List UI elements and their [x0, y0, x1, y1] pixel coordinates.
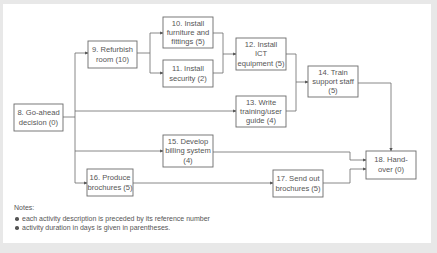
node-17-send-brochures: 17. Send out brochures (5)	[273, 170, 323, 197]
edge-10-12	[213, 33, 236, 54]
node-12-install-ict: 12. Install ICT equipment (5)	[236, 38, 286, 70]
node-14-train-staff: 14. Train support staff (5)	[308, 66, 358, 97]
svg-text:decision (0): decision (0)	[19, 118, 59, 127]
notes-title: Notes:	[14, 203, 210, 212]
svg-text:12. Install: 12. Install	[245, 40, 278, 49]
edge-9-11	[150, 53, 163, 73]
svg-text:furniture and: furniture and	[167, 28, 210, 37]
edge-8-9	[63, 53, 88, 183]
svg-text:training/user: training/user	[240, 107, 282, 116]
edge-13-14	[286, 82, 296, 111]
svg-text:equipment (5): equipment (5)	[238, 59, 285, 68]
node-10-install-furniture: 10. Install furniture and fittings (5)	[163, 17, 213, 48]
svg-text:17. Send out: 17. Send out	[276, 174, 320, 183]
svg-text:13. Write: 13. Write	[246, 98, 276, 107]
svg-text:(4): (4)	[183, 156, 193, 165]
note-item: each activity description is preceded by…	[14, 214, 210, 223]
edge-9-10	[137, 33, 163, 53]
edge-11-12	[213, 54, 223, 73]
svg-text:billing system: billing system	[165, 146, 211, 155]
node-8-go-ahead-decision: 8. Go-ahead decision (0)	[14, 104, 63, 131]
note-item: activity duration in days is given in pa…	[14, 223, 210, 232]
svg-text:over (0): over (0)	[378, 165, 405, 174]
svg-text:guide (4): guide (4)	[246, 116, 276, 125]
svg-text:room (10): room (10)	[96, 55, 129, 64]
svg-text:fittings (5): fittings (5)	[171, 37, 205, 46]
svg-text:ICT: ICT	[255, 49, 268, 58]
node-9-refurbish-room: 9. Refurbish room (10)	[88, 41, 137, 68]
node-15-develop-billing: 15. Develop billing system (4)	[163, 135, 213, 167]
svg-text:16. Produce: 16. Produce	[90, 173, 131, 182]
svg-text:brochures (5): brochures (5)	[275, 184, 321, 193]
node-16-produce-brochures: 16. Produce brochures (5)	[87, 169, 133, 196]
svg-text:brochures (5): brochures (5)	[87, 183, 133, 192]
svg-text:9. Refurbish: 9. Refurbish	[92, 45, 133, 54]
svg-text:18. Hand-: 18. Hand-	[374, 155, 408, 164]
svg-text:8. Go-ahead: 8. Go-ahead	[17, 108, 59, 117]
notes: Notes: each activity description is prec…	[14, 203, 210, 232]
svg-text:security (2): security (2)	[169, 74, 207, 83]
notes-list: each activity description is preceded by…	[14, 214, 210, 232]
svg-text:14. Train: 14. Train	[318, 68, 348, 77]
edge-12-14	[286, 54, 308, 82]
svg-text:11. Install: 11. Install	[172, 64, 204, 73]
edge-15-18	[213, 152, 366, 160]
svg-text:support staff: support staff	[312, 77, 355, 86]
node-11-install-security: 11. Install security (2)	[163, 60, 213, 87]
edge-14-18	[358, 83, 391, 151]
node-18-hand-over: 18. Hand- over (0)	[366, 151, 416, 179]
svg-text:(5): (5)	[328, 86, 338, 95]
node-13-write-guide: 13. Write training/user guide (4)	[236, 96, 286, 127]
svg-text:15. Develop: 15. Develop	[168, 137, 209, 146]
edge-17-18	[323, 169, 366, 183]
svg-text:10. Install: 10. Install	[172, 19, 205, 28]
